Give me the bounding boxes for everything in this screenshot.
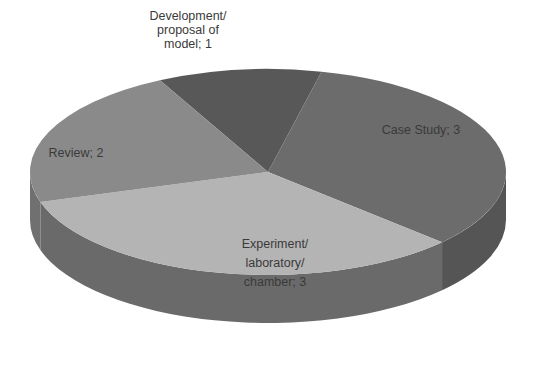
pie-chart: Development/proposal ofmodel; 1Case Stud… [0, 0, 545, 378]
label-case-study: Case Study; 3 [382, 123, 461, 137]
label-experiment: Experiment/laboratory/chamber; 3 [242, 237, 309, 289]
label-review: Review; 2 [49, 146, 104, 160]
label-development: Development/proposal ofmodel; 1 [149, 9, 227, 51]
